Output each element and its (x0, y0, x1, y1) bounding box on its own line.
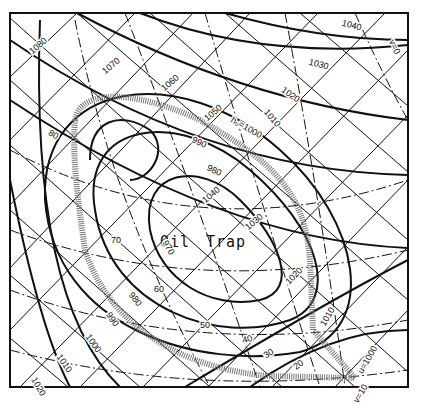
contour-label: 1010 (318, 305, 337, 327)
contour-label: 1040 (200, 184, 222, 205)
trap-word: Trap (206, 233, 246, 251)
contour-label: 990 (190, 135, 208, 150)
contour-label: 1010 (55, 352, 75, 374)
contour-label: 30 (262, 347, 276, 361)
contour-label: 50 (200, 320, 210, 330)
contour-label: 980 (205, 163, 223, 178)
contour-label: 1070 (100, 55, 122, 76)
contour-label: h₀=1000 (229, 115, 263, 141)
contour-label: u=1000 (355, 344, 379, 375)
contour-label: 1010 (262, 107, 283, 129)
oil-trap-diagram: Oil Trap 1080107010601050h₀=100010401030… (0, 0, 422, 418)
contour-label: 1030 (308, 57, 330, 72)
contour-map: Oil Trap 1080107010601050h₀=100010401030… (0, 0, 422, 418)
contour-label: 60 (154, 284, 164, 294)
contour-label: 70 (111, 235, 121, 245)
contour-label: 1080 (27, 35, 49, 56)
contour-labels: 1080107010601050h₀=100010401030102010109… (27, 18, 402, 405)
contour-label: 1040 (341, 18, 363, 33)
contour-label: 1030 (243, 211, 265, 232)
contour-label: 1020 (283, 265, 304, 286)
contour-label: 40 (241, 333, 253, 345)
